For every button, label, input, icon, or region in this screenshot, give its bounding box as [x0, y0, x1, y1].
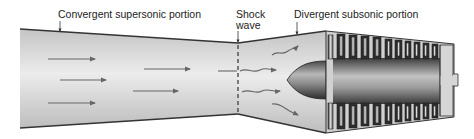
convergent-portion-label: Convergent supersonic portion: [58, 9, 201, 20]
convergent-duct: [20, 29, 238, 128]
shock-wave-label-line2: wave: [236, 20, 265, 31]
divergent-portion-label: Divergent subsonic portion: [294, 9, 418, 20]
diagram-canvas: Convergent supersonic portion Shock wave…: [0, 0, 474, 139]
shock-wave-label: Shock wave: [236, 9, 265, 31]
compressor: [326, 31, 458, 133]
